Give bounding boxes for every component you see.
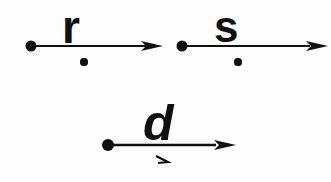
vector-arrow-diagram: r s d: [0, 0, 331, 182]
vector-d-tick-mark: [156, 156, 168, 163]
vector-d-label: d: [143, 98, 174, 148]
vector-d-arrowhead: [214, 140, 236, 150]
vector-d: d: [0, 0, 331, 182]
vector-d-arrow: [0, 0, 331, 182]
